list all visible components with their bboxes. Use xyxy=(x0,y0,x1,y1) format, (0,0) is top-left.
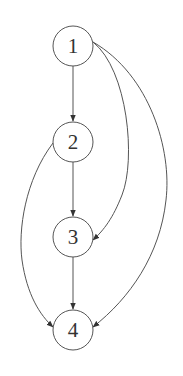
node-2: 2 xyxy=(53,122,93,162)
node-1-label: 1 xyxy=(68,34,79,58)
edges xyxy=(21,42,167,327)
node-3: 3 xyxy=(53,217,93,257)
node-1: 1 xyxy=(53,26,93,66)
edge-1-to-4 xyxy=(93,42,167,327)
node-4-label: 4 xyxy=(68,318,79,342)
node-4: 4 xyxy=(53,310,93,350)
edge-1-to-3 xyxy=(93,42,129,240)
edge-2-to-4 xyxy=(21,143,53,327)
node-2-label: 2 xyxy=(68,130,79,154)
directed-graph: 1 2 3 4 xyxy=(0,0,183,376)
node-3-label: 3 xyxy=(68,225,79,249)
